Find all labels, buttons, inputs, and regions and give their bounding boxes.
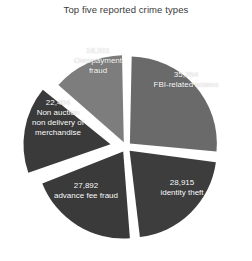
slice-name-identity-theft: identity theft [136, 188, 228, 198]
slice-value-overpayment-fraud: 18,511 [58, 46, 138, 56]
slice-name-fbi-related-scams: FBI-related scams [138, 80, 234, 90]
slice-name-non-auction-line3: merchandise [6, 128, 110, 138]
slice-label-non-auction-non-delivery: 22,404 Non auction non delivery of merch… [6, 98, 110, 138]
slice-name-non-auction-line2: non delivery of [6, 118, 110, 128]
slice-name-overpayment-line1: Overpayment [58, 56, 138, 66]
slice-value-fbi-related-scams: 35,764 [138, 70, 234, 80]
slice-name-non-auction-line1: Non auction [6, 108, 110, 118]
slice-label-fbi-related-scams: 35,764 FBI-related scams [138, 70, 234, 90]
slice-value-identity-theft: 28,915 [136, 178, 228, 188]
pie-chart: Top five reported crime types 35,764 FBI… [0, 0, 252, 261]
slice-value-advance-fee-fraud: 27,892 [34, 181, 138, 191]
slice-name-overpayment-line2: fraud [58, 66, 138, 76]
slice-label-advance-fee-fraud: 27,892 advance fee fraud [34, 181, 138, 201]
slice-name-advance-fee-fraud: advance fee fraud [34, 191, 138, 201]
slice-label-overpayment-fraud: 18,511 Overpayment fraud [58, 46, 138, 76]
slice-value-non-auction-non-delivery: 22,404 [6, 98, 110, 108]
slice-label-identity-theft: 28,915 identity theft [136, 178, 228, 198]
